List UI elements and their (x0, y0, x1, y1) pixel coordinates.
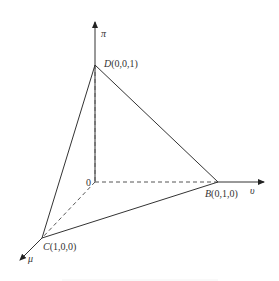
simplex-diagram: π υ μ 0 D(0,0,1) B(0,1,0) C(1,0,0) (0, 0, 279, 281)
point-B-label: B(0,1,0) (205, 188, 238, 200)
point-D-label: D(0,0,1) (103, 58, 138, 70)
mu-axis-label: μ (27, 253, 33, 264)
edge-D-B (95, 65, 218, 182)
pi-axis-label: π (101, 28, 107, 39)
upsilon-axis-label: υ (250, 185, 255, 196)
point-C-label: C(1,0,0) (43, 241, 76, 253)
origin-label: 0 (86, 177, 91, 188)
edge-D-C (42, 65, 95, 238)
